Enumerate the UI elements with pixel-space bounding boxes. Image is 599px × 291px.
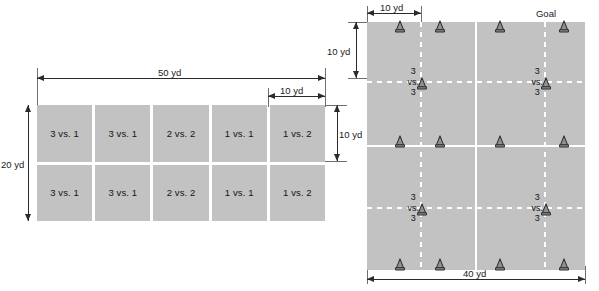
field-side-dim-line [356,22,357,78]
grid-cell[interactable]: 1 vs. 1 [212,105,267,162]
cone-icon [434,135,447,148]
cone-icon [394,258,407,271]
cone-icon [558,258,571,271]
field-width-arrow-left [367,276,374,282]
grid-height-arrow-bottom [25,214,31,221]
cone-icon [494,20,507,33]
cone-icon [558,20,571,33]
grid-cell[interactable]: 3 vs. 1 [37,105,92,162]
field-dashed-line-vertical-right [544,22,546,270]
field-side-arrow-bottom [353,71,359,78]
grid-width-arrow-left [37,75,44,81]
grid-rows: 3 vs. 1 3 vs. 1 2 vs. 2 1 vs. 1 1 vs. 2 … [37,105,325,221]
cone-icon [416,77,429,90]
field-top-segment-label: 10 yd [378,2,405,13]
grid-ext-line-right [325,68,326,107]
field-dashed-line-vertical-left [420,22,422,270]
figure-root: 50 yd 20 yd 10 yd 10 yd 3 vs. 1 3 vs. 1 … [0,0,599,291]
field-ext-line-bottom-right [585,266,586,284]
grid-cell[interactable]: 1 vs. 2 [270,105,325,162]
cone-icon [434,258,447,271]
cone-icon [434,20,447,33]
grid-cell-width-arrow-left [268,93,275,99]
grid-cell-ext-line-bottom [325,161,347,162]
field-diagram: 3 vs. 3 3 vs. 3 3 vs. 3 3 vs. 3 [367,22,585,270]
matchup-top: 3 [531,66,543,77]
grid-cell[interactable]: 3 vs. 1 [37,165,92,222]
cone-icon [394,20,407,33]
grid-row: 3 vs. 1 3 vs. 1 2 vs. 2 1 vs. 1 1 vs. 2 [37,165,325,222]
field-side-arrow-top [353,22,359,29]
grid-cell[interactable]: 1 vs. 2 [270,165,325,222]
grid-cell-height-label: 10 yd [338,127,363,142]
cone-icon [540,77,553,90]
grid-diagram: 3 vs. 1 3 vs. 1 2 vs. 2 1 vs. 1 1 vs. 2 … [37,105,325,221]
field-side-segment-label: 10 yd [326,44,351,59]
grid-height-dim-line [28,105,29,221]
grid-cell-width-dim-line [268,96,325,97]
field-ext-line-side-bottom [348,78,368,79]
field-top-arrow-left [367,10,374,16]
cone-icon [394,135,407,148]
grid-height-label: 20 yd [0,157,25,172]
grid-cell[interactable]: 1 vs. 1 [212,165,267,222]
grid-cell-width-arrow-right [318,93,325,99]
matchup-top: 3 [407,66,419,77]
grid-cell[interactable]: 3 vs. 1 [95,105,150,162]
grid-cell-height-arrow-top [334,105,340,112]
grid-width-arrow-right [318,75,325,81]
cone-icon [540,203,553,216]
cone-icon [416,203,429,216]
field-ext-line-top-right [421,6,422,23]
goal-label: Goal [536,8,556,19]
field-top-dim-line [367,13,421,14]
cone-icon [558,135,571,148]
grid-cell-width-label: 10 yd [278,85,305,96]
grid-cell[interactable]: 3 vs. 1 [95,165,150,222]
grid-cell[interactable]: 2 vs. 2 [153,165,208,222]
grid-cell[interactable]: 2 vs. 2 [153,105,208,162]
field-width-dim-line [367,279,585,280]
cone-icon [494,135,507,148]
grid-cell-height-arrow-bottom [334,154,340,161]
field-width-arrow-right [578,276,585,282]
grid-width-dim-line [37,78,325,79]
matchup-top: 3 [531,192,543,203]
grid-width-label: 50 yd [154,67,185,78]
grid-height-arrow-top [25,105,31,112]
cone-icon [494,258,507,271]
grid-row: 3 vs. 1 3 vs. 1 2 vs. 2 1 vs. 1 1 vs. 2 [37,105,325,162]
field-top-arrow-right [414,10,421,16]
matchup-top: 3 [407,192,419,203]
